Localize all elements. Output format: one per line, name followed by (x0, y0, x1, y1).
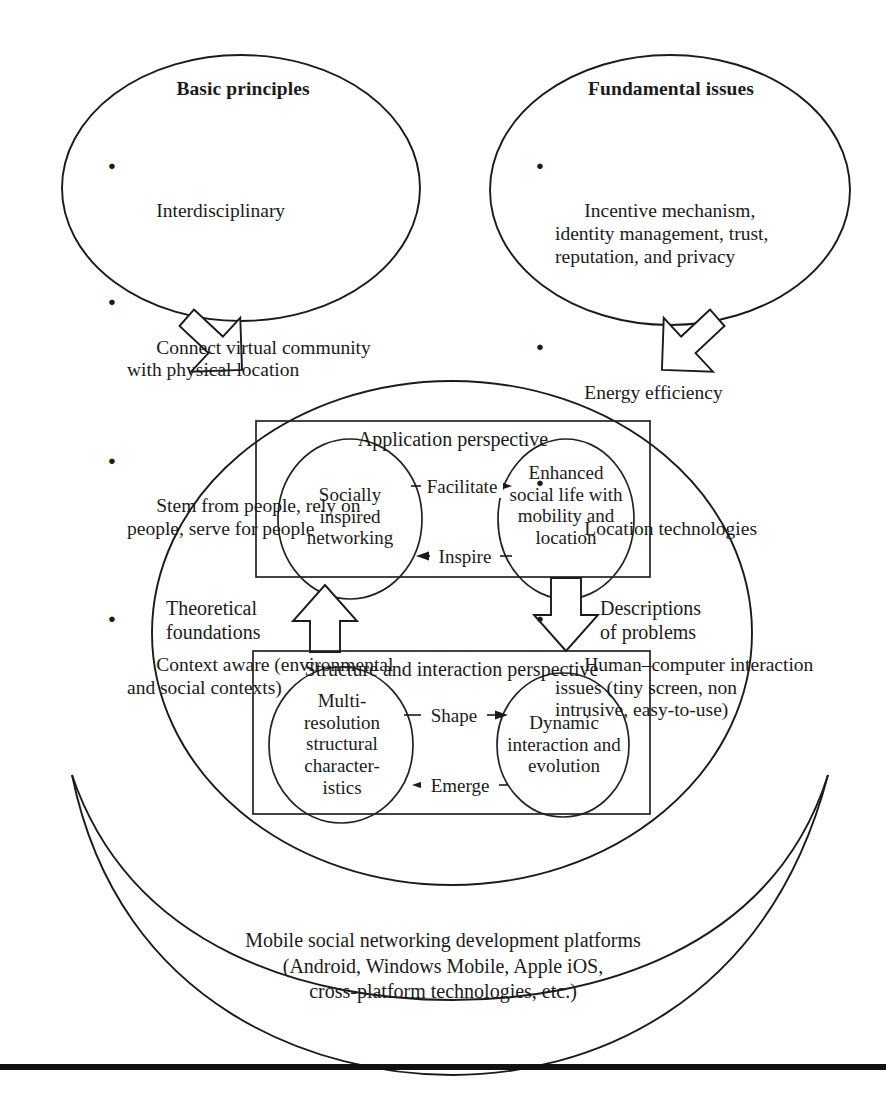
theoretical-foundations-label: Theoretical foundations (166, 596, 326, 644)
list-item: ● Energy efficiency (536, 337, 846, 427)
bullet-icon: ● (536, 155, 544, 177)
descriptions-of-problems-label: Descriptions of problems (600, 596, 770, 644)
multi-resolution-structural-label: Multi- resolution structural character- … (281, 690, 403, 798)
list-item-label: Incentive mechanism, identity management… (555, 200, 768, 266)
bullet-icon: ● (108, 450, 116, 472)
bullet-icon: ● (108, 155, 116, 177)
figure-root: Basic principles ● Interdisciplinary ● C… (0, 0, 886, 1093)
platform-crescent-outer-arc (72, 775, 828, 1075)
shape-label: Shape (421, 705, 487, 727)
list-item: ● Connect virtual community with physica… (108, 291, 398, 404)
list-item: ● Interdisciplinary (108, 155, 398, 245)
bullet-icon: ● (536, 608, 544, 630)
bottom-rule (0, 1064, 886, 1070)
structure-interaction-title: Structure and interaction perspective (253, 658, 650, 681)
inspire-label: Inspire (430, 546, 500, 568)
facilitate-label: Facilitate (421, 476, 503, 498)
dynamic-interaction-label: Dynamic interaction and evolution (494, 712, 634, 777)
bullet-icon: ● (108, 291, 116, 313)
list-item: ● Incentive mechanism, identity manageme… (536, 155, 846, 291)
enhanced-social-life-label: Enhanced social life with mobility and l… (496, 462, 636, 549)
bullet-icon: ● (108, 608, 116, 630)
list-item-label: Interdisciplinary (156, 200, 285, 221)
emerge-label: Emerge (421, 775, 499, 797)
list-item-label: Connect virtual community with physical … (127, 337, 371, 381)
basic-principles-title: Basic principles (128, 78, 358, 101)
fundamental-issues-title: Fundamental issues (556, 78, 786, 101)
socially-inspired-networking-label: Socially inspired networking (290, 484, 410, 549)
bullet-icon: ● (536, 336, 544, 358)
platforms-band-label: Mobile social networking development pla… (0, 928, 886, 1005)
application-perspective-title: Application perspective (256, 428, 650, 451)
list-item-label: Energy efficiency (584, 382, 722, 403)
